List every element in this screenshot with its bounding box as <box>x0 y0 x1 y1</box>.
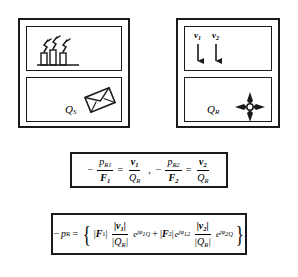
eq1-term2-rhs-fraction: v2 QR <box>195 156 210 183</box>
receiver-pressure-equation-box: − pR = { |F1| |v1| |QR| ejφ1Q + |F2| ejφ… <box>51 213 247 255</box>
source-strength-subscript: S <box>73 108 77 116</box>
eq2-term2-magF-symbol: F <box>162 229 169 239</box>
eq1-term2-equals: = <box>186 165 192 175</box>
eq1-term2-minus: − <box>156 165 162 175</box>
eq1-term1-lhs-denominator: F1 <box>98 171 112 184</box>
eq2-term1-exponential: ejφ1Q <box>133 229 150 239</box>
envelope-icon <box>83 86 117 114</box>
eq1-term2-rhs-numerator: v2 <box>197 156 209 170</box>
eq2-term1-magF-symbol: F <box>96 229 103 239</box>
eq1-term1-equals: = <box>117 165 123 175</box>
eq2-term1-denominator: |QR| <box>110 235 131 248</box>
eq1-term2-lhs-fraction: pR2 F2 <box>165 156 181 183</box>
eq1-term1-lhs-fraction: pR1 F1 <box>97 156 113 183</box>
velocity-arrows-svg <box>193 31 243 71</box>
eq2-term1-fraction: |v1| |QR| <box>110 220 131 247</box>
source-strength-label: QS <box>65 104 76 116</box>
eq2-term2-fraction: |v2| |QR| <box>192 220 213 247</box>
velocity-subpanel: v1 v2 <box>184 26 272 71</box>
source-panel: QS <box>18 18 130 128</box>
eq2-term1-magF-close: | <box>106 229 108 239</box>
eq1-term1-minus: − <box>88 165 94 175</box>
factory-subpanel <box>26 26 122 71</box>
factory-chimneys-svg <box>37 34 89 68</box>
four-direction-star-icon <box>233 90 267 124</box>
eq2-equals: = <box>72 229 78 239</box>
eq1-term1-rhs-fraction: v1 QR <box>127 156 142 183</box>
eq2-lhs-minus: − <box>53 229 59 239</box>
eq1-separator: , <box>148 165 151 175</box>
transfer-ratio-equation-box: − pR1 F1 = v1 QR , − pR2 F2 = v2 QR <box>70 152 228 188</box>
eq2-term2-exponent-1: jφ12 <box>179 229 191 235</box>
panel-row: QS v1 v2 <box>0 0 298 140</box>
figure-root: QS v1 v2 <box>0 0 298 277</box>
eq2-term2-numerator: |v2| <box>195 220 211 234</box>
eq2-term1-numerator: |v1| <box>112 220 128 234</box>
eq1-term2-rhs-denominator: QR <box>195 171 210 184</box>
receiver-strength-symbol: Q <box>207 103 215 115</box>
eq1-term1-lhs-numerator: pR1 <box>97 156 113 170</box>
envelope-svg <box>83 86 117 114</box>
velocity-group: v1 v2 <box>193 31 243 71</box>
source-strength-subpanel: QS <box>26 77 122 122</box>
factory-chimneys-icon <box>37 34 89 68</box>
receiver-strength-subscript: R <box>215 108 219 116</box>
four-direction-star-svg <box>233 90 267 124</box>
receiver-strength-subpanel: QR <box>184 77 272 122</box>
eq2-term2-denominator: |QR| <box>192 235 213 248</box>
eq1-term1-rhs-numerator: v1 <box>129 156 141 170</box>
eq2-lhs-subscript: R <box>66 231 70 238</box>
eq2-term2-exponent-2: jφ2Q <box>220 229 233 235</box>
eq2-term2-magF-close: | <box>172 229 174 239</box>
eq2-open-brace: { <box>83 225 91 243</box>
receiver-strength-label: QR <box>207 104 219 116</box>
transfer-ratio-equation: − pR1 F1 = v1 QR , − pR2 F2 = v2 QR <box>86 156 213 183</box>
eq1-term2-lhs-numerator: pR2 <box>165 156 181 170</box>
eq2-close-brace: } <box>236 225 244 243</box>
eq2-term2-exponential-2: ejφ2Q <box>216 229 233 239</box>
source-strength-symbol: Q <box>65 103 73 115</box>
receiver-pressure-equation: − pR = { |F1| |v1| |QR| ejφ1Q + |F2| ejφ… <box>51 220 246 247</box>
eq2-term1-exponent: jφ1Q <box>137 229 150 235</box>
eq1-term1-rhs-denominator: QR <box>127 171 142 184</box>
receiver-panel: v1 v2 QR <box>176 18 280 128</box>
eq2-term2-exponential-1: ejφ12 <box>175 229 191 239</box>
eq1-term2-lhs-denominator: F2 <box>167 171 181 184</box>
eq2-plus: + <box>152 229 158 239</box>
